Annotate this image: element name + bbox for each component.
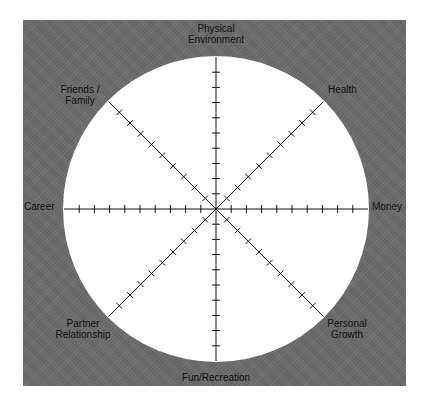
- label-friends-family: Friends / Family: [55, 84, 105, 106]
- label-personal-growth-line1: Personal: [322, 318, 372, 329]
- label-health: Health: [328, 84, 357, 95]
- label-partner-relationship-line2: Relationship: [48, 329, 118, 340]
- wheel-chart: [0, 0, 428, 408]
- label-partner-relationship-line1: Partner: [48, 318, 118, 329]
- label-personal-growth-line2: Growth: [322, 329, 372, 340]
- label-money: Money: [372, 201, 402, 212]
- label-fun-recreation: Fun/Recreation: [176, 372, 256, 383]
- wheel-of-life-figure: Physical Environment Health Money Person…: [0, 0, 428, 408]
- label-physical-environment: Physical Environment: [176, 23, 256, 45]
- label-personal-growth: Personal Growth: [322, 318, 372, 340]
- label-partner-relationship: Partner Relationship: [48, 318, 118, 340]
- label-career: Career: [24, 201, 55, 212]
- label-physical-environment-line2: Environment: [176, 34, 256, 45]
- spokes-group: [64, 57, 368, 361]
- label-friends-family-line2: Family: [55, 95, 105, 106]
- label-friends-family-line1: Friends /: [55, 84, 105, 95]
- label-physical-environment-line1: Physical: [176, 23, 256, 34]
